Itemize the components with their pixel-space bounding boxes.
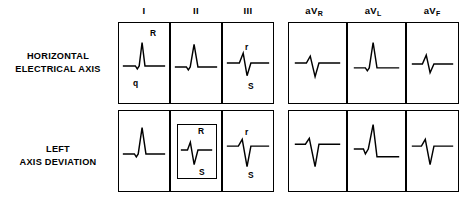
annotation-r: r	[245, 128, 248, 136]
ecg-waveform-row2-lead-i	[119, 111, 169, 191]
annotation-q: q	[133, 79, 138, 87]
annotation-r: r	[245, 43, 248, 51]
column-header-text: III	[243, 5, 252, 16]
column-header-lead-avf: aVF	[406, 5, 458, 16]
row-label-line-2: ELECTRICAL AXIS	[2, 63, 114, 76]
column-header-text: aV	[305, 5, 317, 16]
ecg-axis-figure: HORIZONTAL ELECTRICAL AXIS LEFT AXIS DEV…	[0, 0, 463, 211]
column-header-text: aV	[424, 5, 436, 16]
cell-row1-lead-avf	[406, 22, 459, 104]
ecg-waveform-row1-lead-ii	[171, 23, 221, 103]
row-label-line-1: LEFT	[2, 143, 114, 156]
ecg-waveform-row2-lead-avr	[289, 111, 346, 191]
annotation-R: R	[150, 29, 156, 37]
ecg-waveform-row1-lead-i	[119, 23, 169, 103]
row-label-left-axis-deviation: LEFT AXIS DEVIATION	[2, 143, 114, 168]
column-header-text: aV	[365, 5, 377, 16]
cell-row1-lead-avr	[288, 22, 347, 104]
column-header-lead-avl: aVL	[347, 5, 399, 16]
cell-row2-lead-avl	[347, 110, 406, 192]
row-label-line-2: AXIS DEVIATION	[2, 156, 114, 169]
annotation-S: S	[248, 82, 254, 90]
column-header-subscript: L	[377, 10, 381, 17]
ecg-waveform-row1-lead-iii	[223, 23, 273, 103]
column-header-lead-avr: aVR	[288, 5, 340, 16]
ecg-waveform-row2-lead-avl	[348, 111, 405, 191]
column-header-lead-iii: III	[222, 5, 274, 16]
cell-row2-lead-i	[118, 110, 170, 192]
annotation-S: S	[199, 168, 205, 176]
column-header-lead-i: I	[118, 5, 170, 16]
cell-row1-lead-iii: r S	[222, 22, 274, 104]
highlight-box-row2-lead-ii: R S	[177, 124, 217, 179]
column-header-subscript: F	[436, 10, 440, 17]
cell-row1-lead-ii	[170, 22, 222, 104]
annotation-R: R	[198, 127, 204, 135]
column-header-text: I	[142, 5, 145, 16]
cell-row2-lead-avr	[288, 110, 347, 192]
ecg-waveform-row1-lead-avf	[407, 23, 458, 103]
column-header-lead-ii: II	[170, 5, 222, 16]
cell-row1-lead-i: R q	[118, 22, 170, 104]
cell-row1-lead-avl	[347, 22, 406, 104]
annotation-S: S	[248, 171, 254, 179]
ecg-waveform-row1-lead-avl	[348, 23, 405, 103]
column-header-subscript: R	[318, 10, 323, 17]
ecg-waveform-row2-lead-avf	[407, 111, 458, 191]
row-label-horizontal-electrical-axis: HORIZONTAL ELECTRICAL AXIS	[2, 50, 114, 75]
ecg-waveform-row1-lead-avr	[289, 23, 346, 103]
cell-row2-lead-avf	[406, 110, 459, 192]
column-header-text: II	[193, 5, 199, 16]
cell-row2-lead-ii: R S	[170, 110, 222, 192]
cell-row2-lead-iii: r S	[222, 110, 274, 192]
ecg-waveform-row2-lead-ii	[178, 125, 216, 178]
row-label-line-1: HORIZONTAL	[2, 50, 114, 63]
